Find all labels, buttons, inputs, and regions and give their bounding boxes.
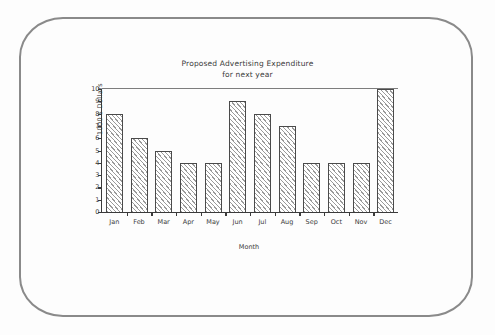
bar [205,163,222,212]
bar [155,151,172,213]
bars-layer [102,89,398,212]
x-axis-tick [299,212,300,216]
bar-slot [151,89,176,212]
bar [106,114,123,212]
bar-chart-figure: Proposed Advertising Expenditure for nex… [0,0,495,335]
y-axis-tick-label: 4 [95,160,99,167]
x-axis-tick-label: Mar [158,219,170,226]
bar [229,101,246,212]
x-axis-tick-label: Dec [379,219,392,226]
x-axis-tick-label: Feb [133,219,145,226]
y-axis-tick-label: 7 [95,123,99,130]
bar [279,126,296,212]
bar-slot [102,89,127,212]
x-axis-tick-label: Jan [109,219,119,226]
bar-slot [349,89,374,212]
x-axis-tick [373,212,374,216]
bar-slot [373,89,398,212]
y-axis-tick-label: 1 [95,196,99,203]
bar-slot [127,89,152,212]
bar [180,163,197,212]
y-axis-tick-label: 3 [95,172,99,179]
x-axis-tick [250,212,251,216]
x-axis-tick [176,212,177,216]
x-axis-tick [225,212,226,216]
bar-slot [299,89,324,212]
x-axis-tick-label: Jul [258,219,266,226]
x-axis-title: Month [101,243,397,251]
y-axis-tick-label: 10 [91,86,99,93]
x-axis-tick-label: Apr [183,219,194,226]
bar [303,163,320,212]
x-axis-tick [349,212,350,216]
x-axis-tick [151,212,152,216]
bar [254,114,271,212]
bar-slot [201,89,226,212]
x-axis-tick [275,212,276,216]
x-axis-tick-label: Sep [306,219,318,226]
chart-title: Proposed Advertising Expenditure for nex… [0,59,495,80]
y-axis-tick-label: 8 [95,110,99,117]
bar-slot [176,89,201,212]
chart-title-line-2: for next year [0,70,495,81]
bar-slot [250,89,275,212]
x-axis-tick-label: Aug [281,219,294,226]
x-axis-tick-label: Jun [233,219,243,226]
bar [353,163,370,212]
y-axis-tick-label: 5 [95,147,99,154]
y-axis-tick-label: 2 [95,184,99,191]
x-axis-tick-label: Oct [331,219,342,226]
bar [328,163,345,212]
y-axis-tick-label: 6 [95,135,99,142]
x-axis-tick [324,212,325,216]
x-axis-tick-label: Nov [355,219,368,226]
bar [131,138,148,212]
y-axis-tick-label: 9 [95,98,99,105]
y-axis-tick-label: 0 [95,209,99,216]
bar-slot [225,89,250,212]
x-axis-tick-label: May [206,219,219,226]
x-axis-tick [201,212,202,216]
plot-area: 012345678910JanFebMarAprMayJunJulAugSepO… [101,89,398,213]
bar-slot [324,89,349,212]
chart-title-line-1: Proposed Advertising Expenditure [0,59,495,70]
x-axis-tick [127,212,128,216]
bar [377,89,394,212]
bar-slot [275,89,300,212]
